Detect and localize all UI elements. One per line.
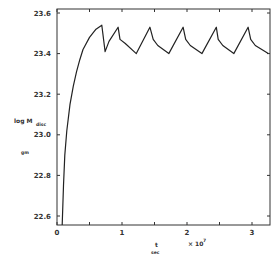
svg-text:log M: log M [14,117,33,125]
chart: 23.623.423.223.022.822.6 0123 log M disc… [0,0,274,260]
x-tick-label: 3 [250,229,255,237]
y-tick-label: 23.6 [34,10,51,18]
y-tick-label: 22.8 [34,172,51,180]
svg-text:7: 7 [203,238,206,243]
svg-text:sec: sec [151,250,160,255]
y-tick-label: 23.2 [34,91,51,99]
x-tick-label: 2 [185,229,190,237]
y-tick-label: 23.0 [34,131,51,139]
svg-text:× 10: × 10 [188,240,203,247]
svg-text:disc: disc [36,122,46,127]
y-tick-label: 22.6 [34,213,51,221]
svg-text:t: t [155,241,158,248]
x-axis-label: t sec × 10 7 [151,238,206,255]
x-axis: 0123 [55,9,255,237]
y-tick-label: 23.4 [34,50,51,58]
data-line [62,25,268,225]
svg-text:gm: gm [21,150,29,155]
plot-frame [57,9,270,225]
x-tick-label: 1 [120,229,125,237]
x-tick-label: 0 [55,229,60,237]
